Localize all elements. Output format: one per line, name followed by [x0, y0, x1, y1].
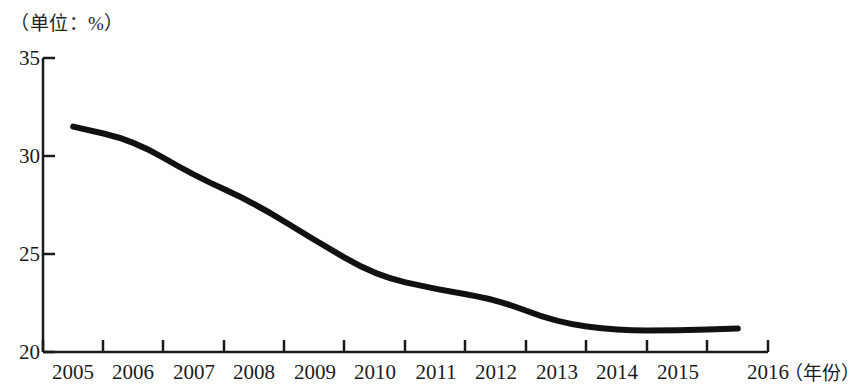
x-tick-label-2010: 2010 [340, 362, 410, 383]
x-axis-ticks [43, 340, 768, 352]
y-axis-ticks [43, 58, 55, 352]
y-tick-label-30: 30 [4, 146, 40, 167]
x-tick-label-2008: 2008 [219, 362, 289, 383]
data-series-line [73, 127, 738, 331]
y-tick-label-20: 20 [4, 342, 40, 363]
x-tick-label-2006: 2006 [98, 362, 168, 383]
line-chart: （单位：%） [0, 0, 856, 392]
x-tick-label-2015: 2015 [643, 362, 713, 383]
x-axis-title: （年份） [784, 364, 856, 383]
x-tick-label-2012: 2012 [461, 362, 531, 383]
y-tick-label-25: 25 [4, 244, 40, 265]
x-tick-label-2014: 2014 [582, 362, 652, 383]
chart-plot-area [0, 0, 856, 392]
y-tick-label-35: 35 [4, 48, 40, 69]
